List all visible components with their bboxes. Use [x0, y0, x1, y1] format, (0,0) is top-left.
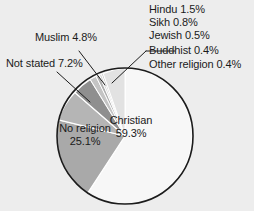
label-not-stated: Not stated 7.2% — [6, 57, 83, 69]
label-no-religion-pct: 25.1% — [48, 135, 122, 148]
label-sikh: Sikh 0.8% — [149, 16, 198, 28]
label-muslim: Muslim 4.8% — [35, 31, 97, 43]
label-no-religion: No religion 25.1% — [48, 122, 122, 147]
label-no-religion-name: No religion — [59, 122, 110, 134]
label-buddhist: Buddhist 0.4% — [149, 44, 219, 56]
label-jewish: Jewish 0.5% — [149, 29, 210, 41]
label-other-religion: Other religion 0.4% — [149, 58, 241, 70]
label-hindu: Hindu 1.5% — [149, 3, 205, 15]
pie-chart-figure: Hindu 1.5% Sikh 0.8% Jewish 0.5% Buddhis… — [0, 0, 254, 211]
